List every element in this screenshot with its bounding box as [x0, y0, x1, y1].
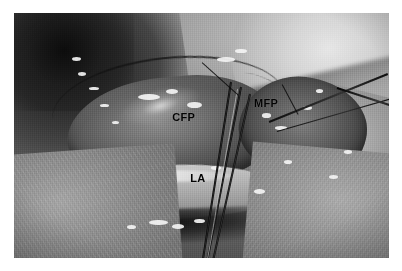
pointer-line-mfp: [282, 84, 299, 114]
annotation-label-cfp: CFP: [172, 112, 195, 123]
clinical-photograph: CFP MFP LA: [14, 13, 389, 258]
region-right-flap: [273, 80, 389, 258]
specular-highlight: [235, 49, 246, 53]
specular-highlight: [100, 104, 108, 108]
specular-highlight: [262, 113, 272, 117]
specular-highlight: [284, 160, 292, 164]
forceps-highlight: [207, 89, 238, 258]
specular-highlight: [78, 72, 86, 76]
specular-highlight: [149, 220, 168, 225]
specular-highlight: [217, 57, 236, 62]
region-bright-upper-right: [211, 13, 389, 148]
suture-retractor-icon: [276, 98, 389, 132]
specular-highlight: [344, 150, 352, 153]
pointer-line-cfp: [201, 62, 238, 96]
specular-highlight: [254, 189, 265, 193]
retractor-tip-icon: [336, 87, 389, 112]
specular-highlight: [138, 94, 161, 100]
annotation-label-la: LA: [190, 173, 205, 184]
specular-highlight: [127, 225, 137, 229]
tissue-fissure-arc-2: [79, 116, 286, 212]
specular-highlight: [194, 219, 205, 223]
specular-highlight: [72, 57, 81, 61]
specular-highlight: [89, 87, 99, 91]
region-lower-right-skin: [241, 142, 389, 258]
region-lower-left-skin: [14, 144, 183, 258]
specular-highlight: [166, 89, 178, 94]
annotation-label-mfp: MFP: [254, 98, 278, 109]
region-la-band-highlight: [104, 170, 232, 182]
specular-highlight: [316, 89, 324, 93]
specular-highlight: [112, 121, 120, 125]
tissue-fissure-arc-1: [47, 45, 289, 169]
region-lower-dark-band: [43, 205, 292, 248]
figure-canvas: CFP MFP LA: [0, 0, 402, 271]
forceps-shaft-icon: [200, 81, 232, 258]
region-dark-upper-left-core: [14, 13, 134, 111]
specular-highlight: [187, 102, 202, 108]
specular-highlight: [329, 175, 338, 179]
specular-highlight: [172, 224, 185, 229]
region-la-band: [58, 159, 286, 225]
